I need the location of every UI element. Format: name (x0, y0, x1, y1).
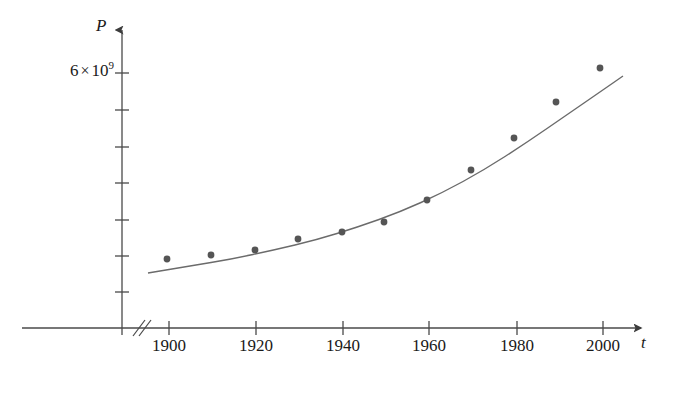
fitted-exponential-curve (148, 76, 623, 273)
data-point (208, 252, 215, 259)
data-point (339, 229, 346, 236)
x-axis-tick-label-1980: 1980 (500, 336, 534, 356)
data-point (295, 236, 302, 243)
x-axis-tick-label-1960: 1960 (412, 336, 446, 356)
data-point (597, 65, 604, 72)
data-point (553, 99, 560, 106)
x-axis-tick-label-1940: 1940 (326, 336, 360, 356)
data-point (424, 197, 431, 204)
x-axis-tick-label-1900: 1900 (152, 336, 186, 356)
multiplication-sign-icon: × (78, 62, 91, 79)
data-point (164, 256, 171, 263)
data-point (381, 219, 388, 226)
data-point (468, 167, 475, 174)
plot-canvas (0, 0, 686, 393)
x-axis-title: t (641, 333, 646, 353)
data-point (511, 135, 518, 142)
y-tick-exponent: 9 (109, 59, 115, 71)
population-scatter-figure: P t 6×109 1900 1920 1940 1960 1980 2000 (0, 0, 686, 393)
y-axis-title: P (96, 16, 106, 36)
x-axis-tick-label-1920: 1920 (239, 336, 273, 356)
y-tick-base: 10 (92, 61, 109, 80)
y-axis-tick-label-6e9: 6×109 (70, 61, 114, 81)
data-point-group (164, 65, 604, 263)
data-point (252, 247, 259, 254)
x-axis-tick-label-2000: 2000 (586, 336, 620, 356)
